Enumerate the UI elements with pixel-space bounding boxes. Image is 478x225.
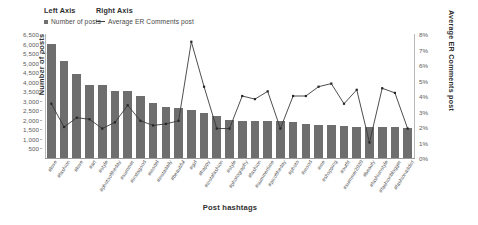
chart-container: Left Axis Right Axis Number of posts Ave… [0,0,478,225]
line-marker [381,87,383,89]
x-axis-tick-labels: #love#fashion#love#art#style#photoofthed… [45,159,414,205]
line-marker [127,104,129,106]
line-series-layer [45,34,414,158]
y-axis-right-tick-label: 7% [419,46,428,53]
legend-keys-row: Number of posts Average ER Comments post [44,18,294,29]
y-axis-right-tick-label: 0% [419,155,428,162]
x-axis-tick-label: #style [97,159,109,174]
legend-heading-right-axis: Right Axis [96,6,133,15]
y-axis-left-tick-mark [40,110,42,111]
y-axis-left-tick-label: 6,000 [23,40,39,47]
y-axis-right-line [414,34,415,158]
y-axis-right-tick-label: 8% [419,31,428,38]
line-marker [190,41,192,43]
y-axis-left-tick-label: 3,000 [23,97,39,104]
line-marker [88,118,90,120]
y-axis-left-tick-label: 6,500 [23,31,39,38]
x-axis-tick-label: #outfit [338,159,351,174]
chart-legend: Left Axis Right Axis Number of posts Ave… [44,6,294,30]
legend-line-swatch-icon [96,21,105,22]
line-marker [228,127,230,129]
y-axis-left-tick-label: 3,500 [23,88,39,95]
line-marker [101,127,103,129]
legend-item-average-er: Average ER Comments post [96,18,194,25]
line-marker [394,92,396,94]
legend-item-number-of-posts: Number of posts [44,18,101,25]
x-axis-tick-label: #art [87,159,97,170]
line-marker [165,123,167,125]
y-axis-left-tick-mark [40,139,42,140]
y-axis-right-tick-label: 6% [419,62,428,69]
y-axis-right-title: Average ER Comments post [447,6,456,116]
line-marker [178,120,180,122]
line-marker [343,103,345,105]
y-axis-left-tick-mark [40,120,42,121]
line-marker [203,86,205,88]
y-axis-left-ticks: 6,5006,0005,5005,0004,5004,0003,5003,000… [0,34,42,158]
line-marker [356,89,358,91]
x-axis-tick-label: #me [315,159,325,171]
line-marker [76,117,78,119]
line-marker [317,86,319,88]
x-axis-tick-label: #mood [299,159,312,176]
y-axis-right-ticks: 8%7%6%5%4%3%2%1%0% [416,34,442,158]
y-axis-left-tick-mark [40,63,42,64]
line-marker [279,127,281,129]
y-axis-left-tick-mark [40,91,42,92]
y-axis-left-tick-mark [40,129,42,130]
y-axis-left-tick-mark [40,34,42,35]
y-axis-right-tick-label: 3% [419,108,428,115]
line-marker [152,124,154,126]
line-marker [305,95,307,97]
legend-label-average-er: Average ER Comments post [108,18,194,25]
y-axis-left-tick-label: 5,500 [23,50,39,57]
plot-area [45,34,414,158]
y-axis-left-tick-mark [40,148,42,149]
y-axis-left-tick-mark [40,53,42,54]
x-axis-tick-label: #girl [188,159,198,171]
y-axis-left-tick-label: 2,000 [23,116,39,123]
legend-heading-left-axis: Left Axis [44,6,75,15]
line-marker [241,95,243,97]
y-axis-left-tick-label: 4,500 [23,69,39,76]
y-axis-left-tick-mark [40,72,42,73]
line-marker [114,121,116,123]
y-axis-right-tick-label: 4% [419,93,428,100]
x-axis-tick-label: #love [47,159,59,173]
line-marker [216,127,218,129]
x-axis-tick-label: #love [72,159,84,173]
y-axis-left-tick-label: 1,000 [23,135,39,142]
x-axis-tick-label: #photo [287,159,301,176]
line-marker [407,127,409,129]
y-axis-right-tick-label: 1% [419,139,428,146]
y-axis-left-tick-label: 2,500 [23,107,39,114]
y-axis-left-tick-label: 1,500 [23,126,39,133]
line-marker [330,83,332,85]
y-axis-right-tick-label: 2% [419,124,428,131]
y-axis-left-tick-label: 4,000 [23,78,39,85]
er-line-path [51,42,407,143]
y-axis-left-tick-mark [40,101,42,102]
y-axis-right-tick-label: 5% [419,77,428,84]
line-marker [368,141,370,143]
y-axis-left-tick-mark [40,44,42,45]
line-marker [63,126,65,128]
line-marker [267,90,269,92]
y-axis-left-tick-mark [40,82,42,83]
legend-headings-row: Left Axis Right Axis [44,6,294,17]
line-marker [292,95,294,97]
y-axis-left-tick-label: 500 [28,145,39,152]
y-axis-left-tick-label: 5,000 [23,59,39,66]
line-marker [254,98,256,100]
legend-label-number-of-posts: Number of posts [51,18,101,25]
line-marker [50,103,52,105]
line-marker [139,120,141,122]
